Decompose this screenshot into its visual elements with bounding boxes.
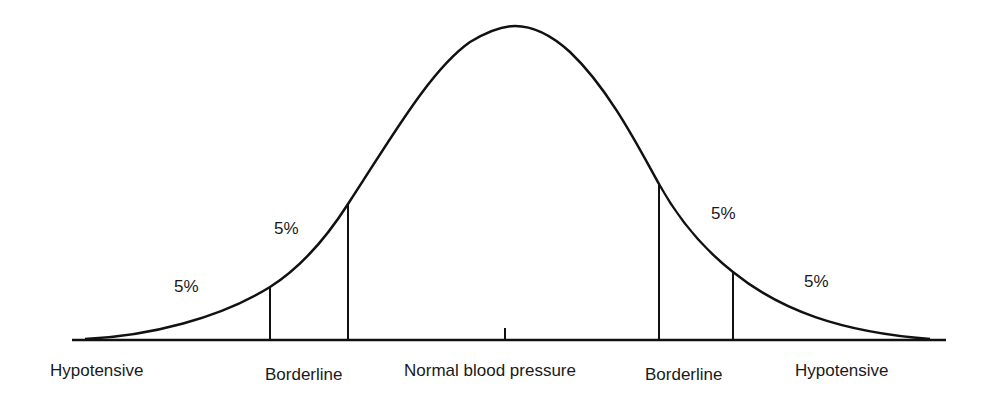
label-borderline-left: Borderline: [265, 366, 343, 383]
label-hypotensive-right: Hypotensive: [795, 362, 889, 379]
percent-label-right-borderline: 5%: [711, 205, 736, 222]
label-normal-blood-pressure: Normal blood pressure: [404, 362, 576, 379]
percent-label-right-tail: 5%: [804, 273, 829, 290]
percent-label-left-borderline: 5%: [274, 220, 299, 237]
bell-curve: [85, 26, 930, 339]
bell-curve-figure: [0, 0, 997, 402]
label-borderline-right: Borderline: [645, 366, 723, 383]
percent-label-left-tail: 5%: [174, 278, 199, 295]
label-hypotensive-left: Hypotensive: [50, 362, 144, 379]
